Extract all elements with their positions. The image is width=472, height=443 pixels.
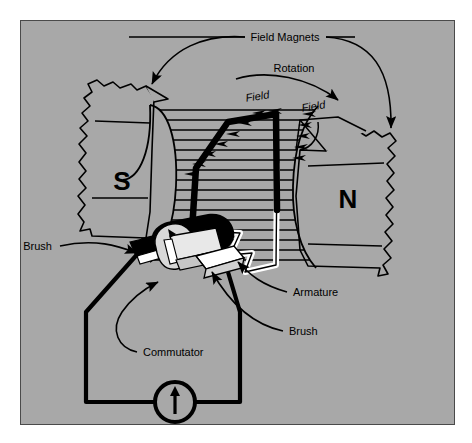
leader-brush-right [212, 272, 283, 331]
label-brush-right: Brush [289, 325, 318, 337]
pole-label-north: N [339, 184, 358, 214]
leader-field-magnets-left [152, 37, 245, 84]
label-rotation: Rotation [274, 62, 315, 74]
field-magnet-north: N [296, 117, 396, 276]
leader-brush-left [60, 243, 137, 253]
field-magnet-south: S [78, 80, 168, 238]
label-field-left: Field [245, 88, 271, 104]
leader-field-magnets-right [326, 37, 391, 128]
external-circuit [86, 250, 240, 422]
label-commutator: Commutator [143, 346, 204, 358]
leader-commutator [116, 282, 158, 352]
label-field-magnets: Field Magnets [250, 31, 320, 43]
pole-label-south: S [113, 166, 130, 196]
dc-motor-diagram: S N [0, 0, 472, 443]
label-armature: Armature [293, 286, 338, 298]
annotation-labels: Field Magnets Rotation Field Field Brush… [23, 31, 338, 358]
label-brush-left: Brush [23, 240, 52, 252]
figure-canvas: S N [0, 0, 472, 443]
label-field-right: Field [301, 98, 327, 114]
current-source [155, 382, 195, 422]
